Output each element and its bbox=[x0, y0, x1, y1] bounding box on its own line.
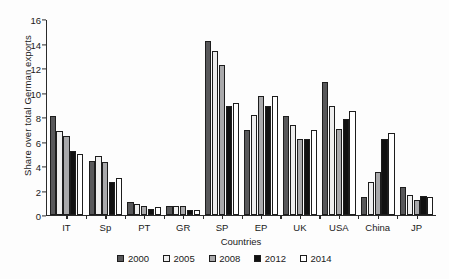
bar-sp-2000 bbox=[89, 161, 95, 215]
x-tick-label-ep: EP bbox=[242, 222, 281, 233]
x-tick-mark-gr bbox=[183, 215, 184, 220]
x-tick-label-sp: SP bbox=[203, 222, 242, 233]
legend-label-2005: 2005 bbox=[174, 253, 195, 264]
bar-ep-2012 bbox=[265, 106, 271, 214]
bar-ep-2000 bbox=[244, 130, 250, 215]
x-tick-mark-ep bbox=[261, 215, 262, 220]
bar-sp-2012 bbox=[226, 106, 232, 215]
bar-gr-2008 bbox=[180, 206, 186, 215]
x-tick-mark-sp bbox=[105, 215, 106, 220]
bar-gr-2012 bbox=[187, 210, 193, 215]
legend-swatch-2008 bbox=[209, 255, 216, 262]
y-tick-mark-6 bbox=[42, 142, 46, 143]
legend-item-2012[interactable]: 2012 bbox=[254, 253, 286, 264]
bar-ep-2008 bbox=[258, 96, 264, 215]
bar-pt-2000 bbox=[127, 202, 133, 215]
legend-swatch-2005 bbox=[163, 255, 170, 262]
legend-item-2000[interactable]: 2000 bbox=[117, 253, 149, 264]
y-tick-mark-2 bbox=[42, 191, 46, 192]
bar-pt-2008 bbox=[141, 206, 147, 215]
x-tick-mark-it bbox=[66, 215, 67, 220]
bar-uk-2000 bbox=[283, 116, 289, 215]
y-tick-mark-0 bbox=[42, 215, 46, 216]
bar-it-2014 bbox=[77, 154, 83, 214]
legend-item-2014[interactable]: 2014 bbox=[300, 253, 332, 264]
legend-swatch-2014 bbox=[300, 255, 307, 262]
legend-item-2008[interactable]: 2008 bbox=[209, 253, 241, 264]
bar-uk-2008 bbox=[297, 139, 303, 215]
bar-jp-2014 bbox=[427, 197, 433, 215]
bar-china-2008 bbox=[375, 172, 381, 215]
bar-gr-2005 bbox=[173, 206, 179, 215]
x-group-divider-sp bbox=[203, 215, 204, 220]
x-axis-tick-labels: ITSpPTGRSPEPUKUSAChinaJP bbox=[47, 222, 436, 233]
x-tick-mark-pt bbox=[144, 215, 145, 220]
bar-usa-2008 bbox=[336, 129, 342, 215]
bar-sp-2014 bbox=[233, 103, 239, 215]
bar-uk-2014 bbox=[311, 130, 317, 215]
y-tick-mark-4 bbox=[42, 166, 46, 167]
bar-group-gr bbox=[164, 20, 203, 215]
x-tick-mark-sp bbox=[222, 215, 223, 220]
x-group-divider-jp bbox=[397, 215, 398, 220]
x-group-divider-gr bbox=[164, 215, 165, 220]
legend-swatch-2000 bbox=[117, 255, 124, 262]
bar-pt-2005 bbox=[134, 204, 140, 214]
x-tick-label-china: China bbox=[358, 222, 397, 233]
y-tick-mark-14 bbox=[42, 44, 46, 45]
bar-china-2012 bbox=[381, 139, 387, 215]
bar-it-2005 bbox=[56, 131, 62, 215]
bar-sp-2008 bbox=[102, 162, 108, 215]
x-tick-label-gr: GR bbox=[164, 222, 203, 233]
x-tick-label-jp: JP bbox=[397, 222, 436, 233]
bar-usa-2014 bbox=[349, 111, 355, 214]
bar-jp-2005 bbox=[407, 195, 413, 214]
x-group-divider-ep bbox=[242, 215, 243, 220]
bar-group-it bbox=[47, 20, 86, 215]
y-tick-mark-16 bbox=[42, 19, 46, 20]
bar-jp-2000 bbox=[400, 187, 406, 214]
bar-groups bbox=[47, 20, 436, 215]
bar-it-2008 bbox=[63, 136, 69, 214]
x-tick-label-uk: UK bbox=[280, 222, 319, 233]
bar-sp-2014 bbox=[116, 178, 122, 215]
bar-usa-2012 bbox=[343, 119, 349, 215]
chart-figure: Share over total German exports 02468101… bbox=[0, 0, 449, 279]
bar-sp-2012 bbox=[109, 182, 115, 215]
bar-it-2000 bbox=[50, 116, 56, 215]
bar-usa-2000 bbox=[322, 82, 328, 215]
bar-group-usa bbox=[319, 20, 358, 215]
legend-label-2012: 2012 bbox=[265, 253, 286, 264]
x-tick-mark-uk bbox=[300, 215, 301, 220]
y-tick-mark-12 bbox=[42, 68, 46, 69]
bar-group-sp bbox=[203, 20, 242, 215]
bar-china-2005 bbox=[368, 182, 374, 214]
x-group-divider-usa bbox=[319, 215, 320, 220]
legend-item-2005[interactable]: 2005 bbox=[163, 253, 195, 264]
legend-label-2000: 2000 bbox=[128, 253, 149, 264]
y-tick-mark-8 bbox=[42, 117, 46, 118]
legend-label-2014: 2014 bbox=[310, 253, 331, 264]
bar-sp-2005 bbox=[95, 156, 101, 214]
bar-sp-2005 bbox=[212, 51, 218, 215]
bar-uk-2012 bbox=[304, 139, 310, 215]
x-tick-mark-usa bbox=[339, 215, 340, 220]
bar-group-china bbox=[358, 20, 397, 215]
bar-uk-2005 bbox=[290, 125, 296, 215]
x-tick-label-it: IT bbox=[47, 222, 86, 233]
x-group-divider-pt bbox=[125, 215, 126, 220]
bar-group-ep bbox=[242, 20, 281, 215]
bar-pt-2012 bbox=[148, 209, 154, 215]
plot-area: 0246810121416 bbox=[46, 20, 436, 216]
bar-usa-2005 bbox=[329, 106, 335, 215]
y-tick-mark-10 bbox=[42, 93, 46, 94]
bar-china-2000 bbox=[361, 197, 367, 215]
bar-sp-2000 bbox=[205, 41, 211, 214]
bar-group-uk bbox=[280, 20, 319, 215]
x-group-divider-china bbox=[358, 215, 359, 220]
bar-jp-2012 bbox=[420, 196, 426, 214]
x-tick-mark-jp bbox=[417, 215, 418, 220]
x-tick-label-pt: PT bbox=[125, 222, 164, 233]
bar-gr-2000 bbox=[166, 206, 172, 215]
bar-sp-2008 bbox=[219, 65, 225, 215]
